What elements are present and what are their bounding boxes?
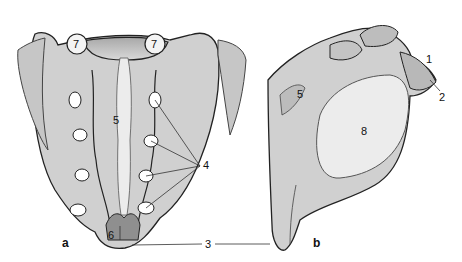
callout-7-left: 7 (73, 38, 79, 50)
sacrum-figure: 7 7 5 4 6 3 a 5 8 1 2 b (0, 0, 462, 262)
callout-3: 3 (205, 238, 211, 250)
callout-6: 6 (108, 229, 114, 241)
callout-5-lateral: 5 (297, 88, 303, 100)
callout-5-posterior: 5 (113, 114, 119, 126)
callout-1: 1 (426, 53, 432, 65)
posterior-view (18, 33, 246, 249)
view-label-b: b (313, 236, 320, 250)
callout-8: 8 (361, 125, 367, 137)
sacrum-illustration: 7 7 5 4 6 3 a 5 8 1 2 b (0, 0, 462, 262)
lateral-view (268, 26, 436, 251)
callout-2: 2 (439, 91, 445, 103)
view-label-a: a (62, 236, 69, 250)
callout-7-right: 7 (151, 38, 157, 50)
callout-4: 4 (203, 159, 209, 171)
